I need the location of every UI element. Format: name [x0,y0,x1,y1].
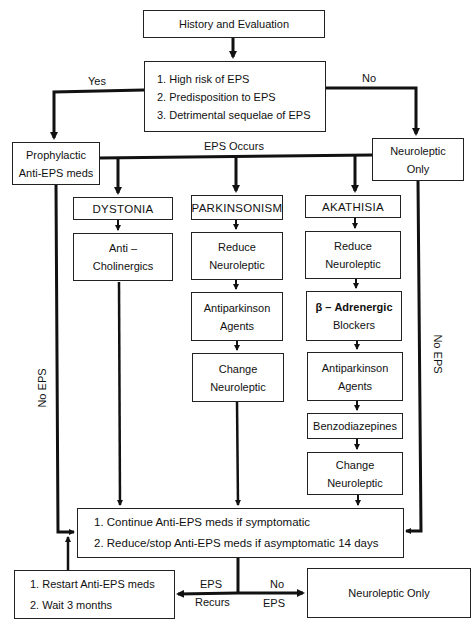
step-line: Neuroleptic [209,256,265,274]
continue-item: 1. Continue Anti-EPS meds if symptomatic [94,512,310,533]
akathisia-reduce-neuroleptic-box: Reduce Neuroleptic [305,231,401,279]
prophylactic-line: Anti-EPS meds [19,164,94,182]
parkinsonism-label: PARKINSONISM [192,199,283,217]
no-eps-bottom-label-top: No [270,578,284,590]
restart-item: 2. Wait 3 months [30,595,112,616]
neuroleptic-only-label: Neuroleptic Only [348,584,429,602]
eps-occurs-label: EPS Occurs [204,140,264,152]
prophylactic-line: Prophylactic [26,146,86,164]
continue-item: 2. Reduce/stop Anti-EPS meds if asymptom… [94,533,378,554]
parkinsonism-change-neuroleptic-box: Change Neuroleptic [192,353,284,402]
neuroleptic-only-bottom-box: Neuroleptic Only [307,568,471,618]
step-line: Change [336,456,375,474]
step-line: Neuroleptic [327,474,383,492]
no-eps-bottom-label-bottom: EPS [263,597,285,609]
akathisia-antiparkinson-box: Antiparkinson Agents [307,352,403,401]
step-line: Agents [338,377,372,395]
criteria-item: 1. High risk of EPS [157,70,249,88]
eps-recurs-label-bottom: Recurs [195,596,230,608]
yes-label: Yes [88,75,106,87]
parkinsonism-header: PARKINSONISM [191,195,283,220]
step-line: Change [219,360,258,378]
history-evaluation-box: History and Evaluation [143,10,325,38]
neuroleptic-only-line: Neuroleptic [390,142,446,160]
continue-reduce-box: 1. Continue Anti-EPS meds if symptomatic… [77,508,404,558]
akathisia-label: AKATHISIA [322,198,384,216]
restart-box: 1. Restart Anti-EPS meds 2. Wait 3 month… [14,570,175,619]
step-line: Cholinergics [93,257,154,275]
step-line: Reduce [218,238,256,256]
akathisia-change-neuroleptic-box: Change Neuroleptic [307,452,403,495]
parkinsonism-antiparkinson-box: Antiparkinson Agents [191,292,283,341]
step-line: Antiparkinson [204,299,271,317]
step-line: Antiparkinson [322,359,389,377]
step-line: Reduce [334,237,372,255]
risk-criteria-box: 1. High risk of EPS 2. Predisposition to… [144,61,326,132]
benzodiazepines-box: Benzodiazepines [307,413,403,439]
no-label: No [362,72,376,84]
anticholinergics-box: Anti – Cholinergics [73,233,173,281]
eps-recurs-label-top: EPS [200,578,222,590]
history-label: History and Evaluation [179,15,289,33]
dystonia-label: DYSTONIA [93,200,154,218]
step-line: Benzodiazepines [313,417,397,435]
criteria-item: 3. Detrimental sequelae of EPS [157,106,310,124]
prophylactic-box: Prophylactic Anti-EPS meds [12,142,100,185]
step-line: β – Adrenergic [315,298,392,316]
no-eps-right-label: No EPS [432,334,444,373]
step-line: Neuroleptic [325,255,381,273]
criteria-item: 2. Predisposition to EPS [157,88,276,106]
step-line: Blockers [333,316,375,334]
neuroleptic-only-top-box: Neuroleptic Only [372,138,464,181]
step-line: Agents [220,317,254,335]
dystonia-header: DYSTONIA [73,197,173,220]
no-eps-left-label: No EPS [36,368,48,407]
neuroleptic-only-line: Only [407,160,430,178]
step-line: Anti – [109,239,137,257]
parkinsonism-reduce-neuroleptic-box: Reduce Neuroleptic [191,232,283,280]
akathisia-header: AKATHISIA [305,195,401,218]
step-line: Neuroleptic [210,378,266,396]
beta-adrenergic-blockers-box: β – Adrenergic Blockers [306,291,402,341]
restart-item: 1. Restart Anti-EPS meds [30,574,155,595]
